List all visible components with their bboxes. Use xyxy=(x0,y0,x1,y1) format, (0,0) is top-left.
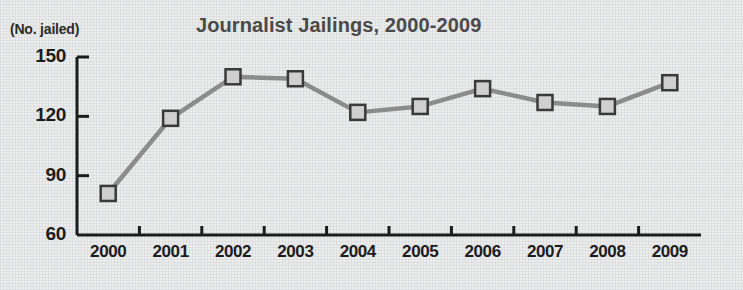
data-point-marker xyxy=(350,105,365,120)
x-axis-tick-label: 2008 xyxy=(576,242,638,262)
chart-figure: (No. jailed) Journalist Jailings, 2000-2… xyxy=(0,0,743,290)
x-axis-tick-label: 2002 xyxy=(202,242,264,262)
data-point-marker xyxy=(600,99,615,114)
data-point-marker xyxy=(662,75,677,90)
data-point-marker xyxy=(475,81,490,96)
data-line-series xyxy=(108,77,670,194)
data-point-marker xyxy=(226,69,241,84)
x-axis-tick-label: 2000 xyxy=(77,242,139,262)
axis-group xyxy=(77,57,701,235)
x-axis-tick-label: 2006 xyxy=(451,242,513,262)
y-axis-tick-label: 120 xyxy=(8,104,66,126)
x-axis-tick-label: 2001 xyxy=(139,242,201,262)
x-axis-tick-label: 2007 xyxy=(514,242,576,262)
y-axis-tick-label: 150 xyxy=(8,45,66,67)
x-axis-tick-label: 2004 xyxy=(327,242,389,262)
y-axis-tick-label: 90 xyxy=(8,164,66,186)
y-axis-tick-label: 60 xyxy=(8,223,66,245)
x-axis-tick-label: 2009 xyxy=(639,242,701,262)
data-point-marker xyxy=(101,186,116,201)
x-axis-tick-label: 2003 xyxy=(264,242,326,262)
data-point-marker xyxy=(288,71,303,86)
data-point-marker xyxy=(163,111,178,126)
data-point-marker xyxy=(413,99,428,114)
data-point-markers xyxy=(101,69,678,201)
data-point-marker xyxy=(538,95,553,110)
x-axis-tick-label: 2005 xyxy=(389,242,451,262)
y-axis-ticks xyxy=(77,57,89,176)
